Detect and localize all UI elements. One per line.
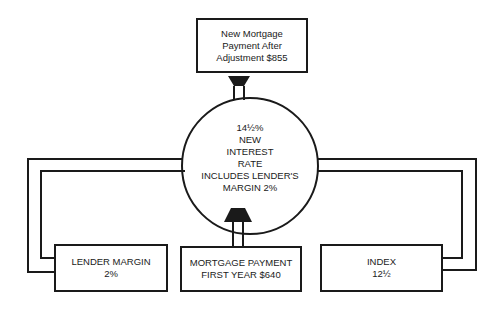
top-box-line-1: New Mortgage [221,28,283,40]
right-box-line-2: 12½ [372,268,391,280]
circle-line-3: INTEREST [178,146,322,158]
circle-line-2: NEW [178,134,322,146]
lender-margin-box: LENDER MARGIN 2% [54,244,168,292]
right-box-line-1: INDEX [367,256,396,268]
circle-line-1: 14½% [178,122,322,134]
arrowhead-up-top [228,76,250,86]
circle-line-6: MARGIN 2% [178,182,322,194]
middle-box-line-1: MORTGAGE PAYMENT [190,257,292,269]
new-mortgage-payment-box: New Mortgage Payment After Adjustment $8… [196,18,308,73]
new-interest-rate-label: 14½% NEW INTEREST RATE INCLUDES LENDER'S… [178,122,322,194]
top-box-line-3: Adjustment $855 [216,52,287,64]
circle-line-4: RATE [178,158,322,170]
mortgage-payment-first-year-box: MORTGAGE PAYMENT FIRST YEAR $640 [180,246,302,292]
top-box-line-2: Payment After [222,40,282,52]
circle-line-5: INCLUDES LENDER'S [178,170,322,182]
left-box-line-1: LENDER MARGIN [71,256,150,268]
middle-box-line-2: FIRST YEAR $640 [201,269,280,281]
index-box: INDEX 12½ [320,244,443,292]
left-box-line-2: 2% [104,268,118,280]
